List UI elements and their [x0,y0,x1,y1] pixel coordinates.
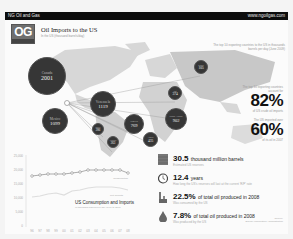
y-tick: 0 [21,224,23,228]
bubble-venezuela[interactable]: Venezuela 1119 [90,91,116,117]
stat-value: 7.8% [173,211,191,220]
source-text: Energy Information Administration [245,220,283,223]
bubble-value: 1119 [98,104,108,109]
page-title: Oil Imports to the US [41,26,97,33]
stat-reserves: 30.5 thousand million barrels Estimated … [155,154,285,172]
stat-desc: Estimated US reserves [173,163,204,167]
chart-title: US Consumption and Imports [75,200,134,205]
infographic: NG Oil and Gas www.ngoilgas.com OG Oil I… [5,12,288,234]
bubble-angola[interactable]: Angola 435 [143,132,158,147]
bubble-nigeria[interactable]: Nigeria 769 [124,114,144,134]
refinery-icon [158,192,168,203]
legend-imports: Net Imports [110,194,124,197]
y-tick: 5,000 [15,210,23,214]
bubble-mexico[interactable]: Mexico 1099 [42,108,68,134]
page-subtitle: In the US (thousand barrels/day) [41,34,84,38]
stat-unit: of total oil produced in 2008 [198,194,259,200]
header-brand: NG Oil and Gas [8,12,40,20]
svg-text:01: 01 [70,229,74,233]
svg-text:98: 98 [46,229,50,233]
logo-text: OG [12,25,34,40]
bubble-value: 105 [198,66,203,70]
stat-value: 30.5 [173,154,189,163]
stat-foot: of US crude oil imports [233,109,283,113]
oil-drop-icon [158,211,168,222]
y-tick: 15,000 [14,182,24,186]
stat-consumed: 22.5% of total oil produced in 2008 Was … [155,192,285,210]
stat-unit: thousand million barrels [191,156,244,162]
stat-value: 22.5% [173,192,196,201]
y-tick: 20,000 [14,168,24,172]
bubble-value: 286 [96,128,101,132]
stat-value: 82% [233,93,283,109]
bubble-brazil[interactable]: Brazil 286 [92,123,104,135]
svg-text:03: 03 [86,229,90,233]
svg-text:07: 07 [118,229,122,233]
header-url[interactable]: www.ngoilgas.com [248,12,285,20]
barrel-icon [158,154,168,165]
svg-text:96: 96 [30,229,34,233]
bubble-value: 769 [131,123,138,128]
og-logo: OG [11,24,35,44]
stat-60-percent: The US imported over 60% of its oil in 2… [250,118,283,142]
bubble-saudi-arabia[interactable]: Saudi Arabia 902 [165,108,187,130]
consumption-imports-chart: 25,000 20,000 15,000 10,000 5,000 0 9697… [5,152,145,234]
chart-subtitle: In thousand barrels per day 1996 to 2007 [75,206,121,209]
stat-desc: Was consumed by the US [173,201,208,205]
stat-value: 12.4 [173,173,189,182]
stat-unit: years [191,175,203,181]
map-note: The top 10 exporting countries to the US… [210,43,285,51]
y-tick: 10,000 [14,196,24,200]
bubble-value: 2001 [41,75,53,81]
stat-years: 12.4 years How long the US's reserves wi… [155,173,285,191]
svg-text:02: 02 [78,229,82,233]
svg-text:04: 04 [94,229,98,233]
bubble-canada[interactable]: Canada 2001 [28,57,66,95]
bubble-ecuador[interactable]: Ecuador 263 [107,136,119,148]
svg-text:06: 06 [110,229,114,233]
svg-text:08: 08 [126,229,130,233]
stat-82-percent: The top 10 exporting countries account f… [233,85,283,113]
bubble-russia[interactable]: Russia 105 [194,60,208,74]
source-note: Source: Energy Information Administratio… [245,217,283,223]
stat-desc: Was produced by the US [173,220,206,224]
svg-text:99: 99 [54,229,58,233]
bubble-value: 1099 [50,121,60,126]
header-bar: NG Oil and Gas www.ngoilgas.com [5,12,288,20]
bubble-value: 374 [172,92,177,96]
bubble-iraq[interactable]: Iraq 374 [168,86,182,100]
clock-icon [158,173,168,184]
y-tick: 25,000 [14,154,24,158]
svg-text:00: 00 [62,229,66,233]
bubble-value: 435 [148,139,153,143]
stat-value: 60% [250,122,283,138]
bubble-value: 263 [111,141,116,145]
bubble-value: 902 [173,118,180,123]
svg-text:05: 05 [102,229,106,233]
stat-desc: How long the US's reserves will last at … [173,182,252,186]
legend-consumption: Consumption [113,177,128,180]
svg-text:97: 97 [38,229,42,233]
us-marker [65,101,70,106]
